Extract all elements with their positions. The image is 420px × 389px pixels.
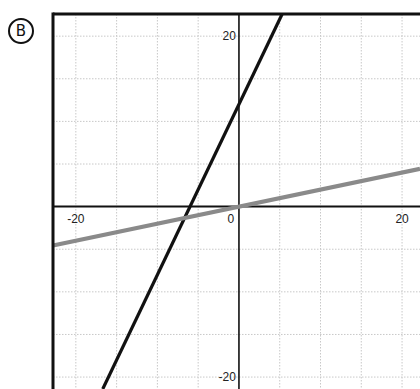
x-tick-label: 20 [395,212,409,226]
grid-lines [53,14,420,389]
y-tick-label: 20 [223,29,237,43]
line-chart: -2002020-20 [0,0,420,389]
series-lines [53,14,420,389]
plot-frame [53,13,420,389]
axes [53,14,420,389]
y-tick-label: -20 [219,370,237,384]
x-tick-label: 0 [228,212,235,226]
x-tick-label: -20 [67,212,85,226]
